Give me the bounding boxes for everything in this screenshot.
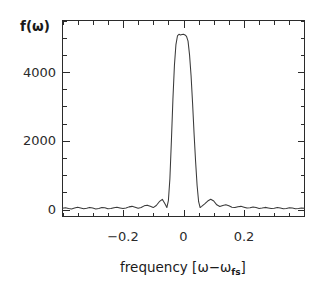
y-tick-label: 0: [48, 202, 56, 217]
y-axis-ticks-right: [298, 22, 305, 211]
x-axis-title-bracket-close: ]: [241, 259, 246, 275]
x-axis-title-omega-2: ω: [220, 259, 231, 275]
y-axis-ticks: [63, 22, 70, 211]
spectrum-plot: −0.200.2 020004000 f(ω) frequency [ω−ωfs…: [0, 0, 324, 284]
y-tick-labels: 020004000: [23, 65, 56, 218]
x-axis-title-minus: −: [209, 259, 220, 275]
y-axis-title: f(ω): [20, 18, 50, 34]
plot-frame: [63, 21, 305, 217]
x-tick-label: −0.2: [107, 229, 139, 244]
spectrum-curve: [63, 34, 305, 209]
x-tick-labels: −0.200.2: [107, 229, 254, 244]
x-axis-title: frequency [ω−ωfs]: [120, 259, 246, 277]
x-axis-title-word: frequency [: [120, 259, 197, 275]
x-tick-label: 0: [179, 229, 187, 244]
x-axis-title-subscript: fs: [231, 267, 240, 277]
x-axis-ticks: [64, 210, 290, 217]
y-tick-label: 2000: [23, 133, 56, 148]
x-axis-title-omega: ω: [197, 259, 208, 275]
y-tick-label: 4000: [23, 65, 56, 80]
x-tick-label: 0.2: [234, 229, 255, 244]
x-axis-ticks-top: [64, 21, 290, 28]
figure-container: −0.200.2 020004000 f(ω) frequency [ω−ωfs…: [0, 0, 324, 284]
